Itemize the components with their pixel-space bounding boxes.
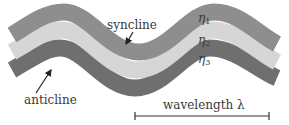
anticline-label: anticline <box>24 93 77 107</box>
anticline-arrow-icon <box>36 70 51 93</box>
wavelength-label: wavelength λ <box>163 98 245 112</box>
syncline-label: syncline <box>107 18 157 32</box>
fold-diagram: η1 η2 η3 syncline anticline wavelength λ <box>0 0 289 125</box>
fold-diagram-svg: η1 η2 η3 syncline anticline wavelength λ <box>0 0 289 125</box>
